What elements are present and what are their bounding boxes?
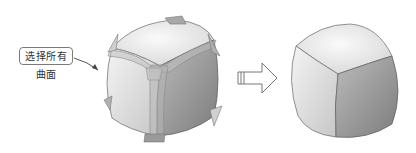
rounded-cube [291,24,398,137]
callout-label: 选择所有曲面 [19,47,73,65]
cube-with-surfaces [104,16,222,142]
diagram-canvas [0,0,416,153]
callout-arrow [74,58,98,70]
arrow-right-icon [238,63,277,93]
